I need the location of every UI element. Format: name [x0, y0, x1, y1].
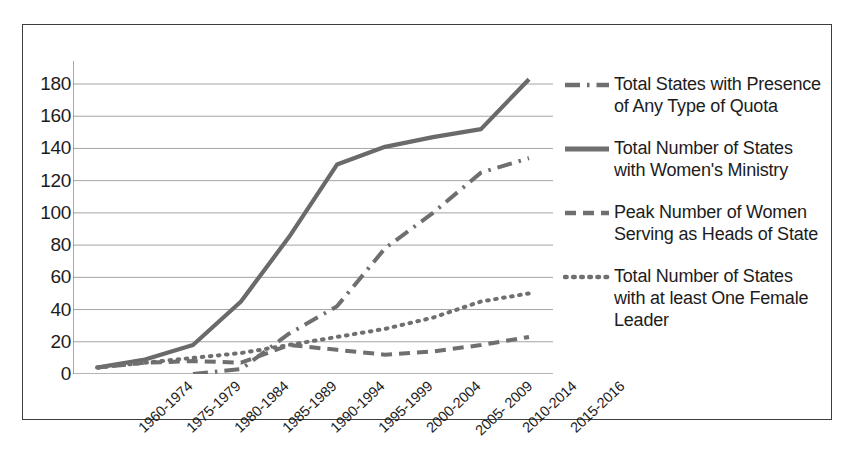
- y-tick-label: 100: [23, 202, 71, 224]
- plot-svg: [73, 61, 553, 374]
- y-axis-tick-labels: 020406080100120140160180: [11, 61, 71, 374]
- legend-item[interactable]: Total Number of States with at least One…: [563, 265, 821, 331]
- legend-swatch-dash-dot-icon: [563, 73, 611, 95]
- y-tick-label: 0: [23, 363, 71, 385]
- chart-figure: 020406080100120140160180 1960-19741975-1…: [22, 24, 832, 420]
- legend-label: Peak Number of Women Serving as Heads of…: [614, 201, 821, 245]
- y-tick-label: 20: [23, 331, 71, 353]
- legend-label: Total States with Presence of Any Type o…: [614, 73, 821, 117]
- series-line-1: [97, 79, 529, 367]
- y-tick-label: 40: [23, 299, 71, 321]
- legend-item[interactable]: Peak Number of Women Serving as Heads of…: [563, 201, 821, 245]
- axes: [73, 61, 553, 374]
- legend-label: Total Number of States with at least One…: [614, 265, 821, 331]
- legend-swatch-solid-icon: [563, 137, 611, 159]
- chart-legend: Total States with Presence of Any Type o…: [563, 73, 821, 351]
- plot-area: [73, 61, 553, 374]
- y-tick-label: 120: [23, 170, 71, 192]
- y-tick-label: 80: [23, 234, 71, 256]
- y-tick-label: 60: [23, 266, 71, 288]
- legend-item[interactable]: Total States with Presence of Any Type o…: [563, 73, 821, 117]
- legend-swatch-dashed-icon: [563, 201, 611, 223]
- legend-label: Total Number of States with Women's Mini…: [614, 137, 821, 181]
- y-tick-label: 180: [23, 73, 71, 95]
- x-axis-tick-labels: 1960-19741975-19791980-19841985-19891990…: [73, 374, 573, 444]
- legend-item[interactable]: Total Number of States with Women's Mini…: [563, 137, 821, 181]
- y-tick-label: 140: [23, 137, 71, 159]
- y-tick-label: 160: [23, 105, 71, 127]
- legend-swatch-dotted-icon: [563, 265, 611, 287]
